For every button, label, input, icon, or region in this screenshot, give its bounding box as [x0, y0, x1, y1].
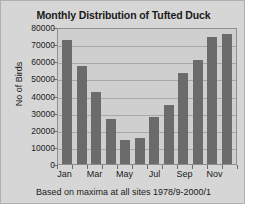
y-axis-tick-label: 0: [19, 160, 55, 170]
bar-slot: [191, 29, 206, 164]
x-axis-tick-label: Mar: [87, 169, 103, 179]
bar: [164, 105, 174, 164]
bar-slot: [133, 29, 148, 164]
y-axis-tickmark: [53, 62, 57, 63]
bar: [120, 140, 130, 164]
x-axis-tick-label: Nov: [206, 169, 222, 179]
chart-caption: Based on maxima at all sites 1978/9-2000…: [1, 187, 246, 197]
bar: [91, 92, 101, 164]
y-axis-tick-label: 50000: [19, 74, 55, 84]
y-axis-tick-label: 60000: [19, 57, 55, 67]
y-axis-tickmark: [53, 28, 57, 29]
plot-area: [57, 28, 237, 165]
bar: [135, 138, 145, 164]
x-axis-tickmark: [237, 165, 238, 169]
bar: [106, 119, 116, 164]
chart-screenshot: Monthly Distribution of Tufted Duck No o…: [0, 0, 253, 211]
y-axis-tickmark: [53, 131, 57, 132]
y-axis-tickmark: [53, 148, 57, 149]
bar-slot: [162, 29, 177, 164]
x-axis-tick-label: Sep: [176, 169, 192, 179]
bar: [193, 60, 203, 164]
bar-slot: [205, 29, 220, 164]
bar-slot: [147, 29, 162, 164]
y-axis-tick-label: 40000: [19, 92, 55, 102]
chart-title: Monthly Distribution of Tufted Duck: [1, 9, 246, 21]
y-axis-tick-label: 10000: [19, 143, 55, 153]
y-axis-tick-labels: 8000070000600005000040000300002000010000…: [19, 28, 55, 165]
y-axis-tickmark: [53, 45, 57, 46]
y-axis-tickmark: [53, 114, 57, 115]
bar-slot: [60, 29, 75, 164]
y-axis-tick-label: 80000: [19, 23, 55, 33]
y-axis-tick-label: 20000: [19, 126, 55, 136]
bar-slot: [75, 29, 90, 164]
y-axis-tick-label: 30000: [19, 109, 55, 119]
y-axis-tickmark: [53, 165, 57, 166]
chart-card: Monthly Distribution of Tufted Duck No o…: [0, 0, 245, 204]
x-axis-tick-label: Jul: [149, 169, 161, 179]
bar: [207, 37, 217, 164]
bar: [178, 73, 188, 164]
x-axis-tick-labels: JanMarMayJulSepNov: [57, 169, 237, 183]
y-axis-tickmark: [53, 97, 57, 98]
bar: [222, 34, 232, 164]
bar-series: [58, 29, 236, 164]
y-axis-tickmark: [53, 79, 57, 80]
bar: [77, 66, 87, 164]
x-axis-tick-label: Jan: [57, 169, 72, 179]
bar: [149, 117, 159, 164]
bar-slot: [118, 29, 133, 164]
y-axis-tick-label: 70000: [19, 40, 55, 50]
bar-slot: [220, 29, 235, 164]
bar: [62, 40, 72, 164]
bar-slot: [89, 29, 104, 164]
bar-slot: [104, 29, 119, 164]
bar-slot: [176, 29, 191, 164]
x-axis-tick-label: May: [116, 169, 133, 179]
